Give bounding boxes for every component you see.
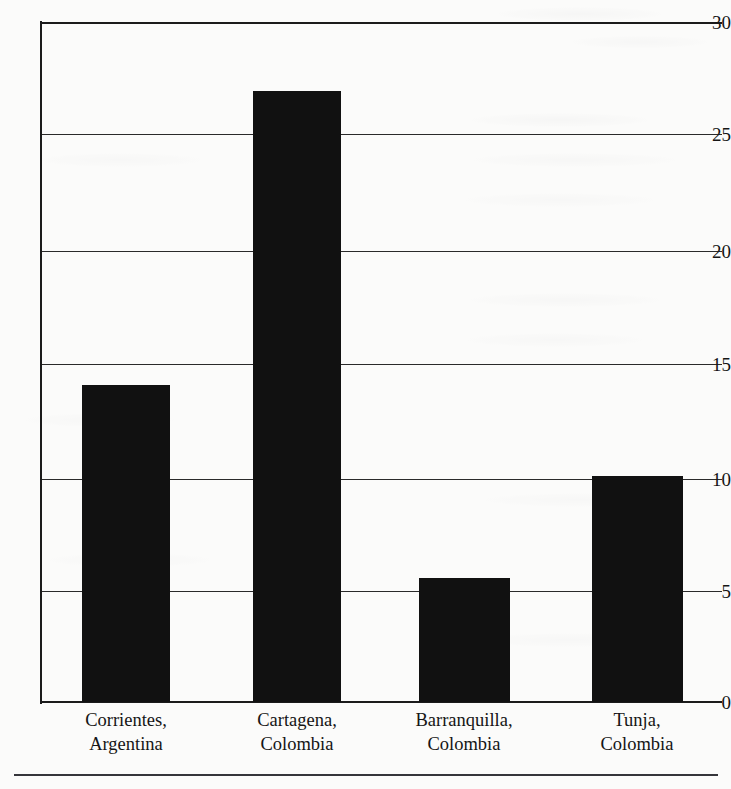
- xtick-line-1: Tunja,: [557, 709, 717, 733]
- ytick-label-25: 25: [697, 125, 731, 144]
- xtick-line-2: Argentina: [46, 733, 206, 757]
- xtick-line-1: Cartagena,: [217, 709, 377, 733]
- gridline-15: [40, 364, 722, 365]
- ytick-label-20: 20: [697, 242, 731, 261]
- bar-barranquilla-colombia: [419, 578, 510, 702]
- ytick-label-10: 10: [697, 470, 731, 489]
- xtick-label-cartagena-colombia: Cartagena, Colombia: [217, 709, 377, 756]
- gridline-30: [40, 22, 722, 24]
- page-footer-rule: [14, 774, 718, 776]
- gridline-20: [40, 251, 722, 252]
- ytick-label-15: 15: [697, 355, 731, 374]
- bar-corrientes-argentina: [82, 385, 170, 702]
- xtick-line-2: Colombia: [384, 733, 544, 757]
- xtick-line-1: Barranquilla,: [384, 709, 544, 733]
- bar-tunja-colombia: [592, 476, 683, 702]
- ytick-label-5: 5: [697, 582, 731, 601]
- y-axis-line: [40, 21, 42, 704]
- bar-cartagena-colombia: [253, 91, 341, 702]
- xtick-line-2: Colombia: [217, 733, 377, 757]
- ytick-label-30: 30: [697, 13, 731, 32]
- xtick-line-2: Colombia: [557, 733, 717, 757]
- xtick-line-1: Corrientes,: [46, 709, 206, 733]
- xtick-label-tunja-colombia: Tunja, Colombia: [557, 709, 717, 756]
- xtick-label-barranquilla-colombia: Barranquilla, Colombia: [384, 709, 544, 756]
- xtick-label-corrientes-argentina: Corrientes, Argentina: [46, 709, 206, 756]
- bar-chart-figure: 30 25 20 15 10 5 0 Corrientes, Argentina…: [0, 0, 731, 789]
- gridline-25: [40, 134, 722, 135]
